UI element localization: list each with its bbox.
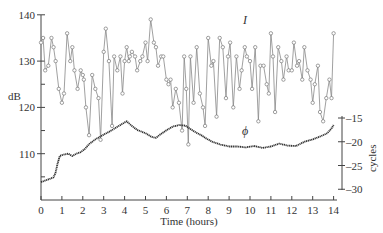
data-point (167, 83, 170, 86)
data-point (119, 55, 122, 58)
y-tick-label: 120 (19, 101, 36, 113)
data-point (50, 36, 53, 39)
data-point (325, 96, 328, 99)
data-point (116, 69, 119, 72)
data-point (121, 92, 124, 95)
data-point (277, 46, 280, 49)
data-point (107, 59, 110, 62)
data-point (248, 59, 251, 62)
series-line (41, 121, 334, 182)
data-point (269, 32, 272, 35)
y-tick-label: 110 (19, 148, 36, 160)
x-axis-label: Time (hours) (160, 215, 218, 228)
data-point (267, 92, 270, 95)
data-point (243, 46, 246, 49)
data-point (69, 59, 72, 62)
data-point (99, 138, 102, 141)
x-tick-label: 14 (328, 204, 340, 216)
data-point (171, 106, 174, 109)
data-point (332, 32, 335, 35)
data-point (215, 115, 218, 118)
series-line (41, 19, 334, 144)
y-tick-label: 130 (19, 55, 36, 67)
data-point (81, 73, 84, 76)
data-point (306, 69, 309, 72)
data-point (79, 69, 82, 72)
data-point (295, 64, 298, 67)
data-point (201, 106, 204, 109)
data-point (235, 55, 238, 58)
right-y-tick-label: –25 (345, 160, 363, 172)
series-label-i: I (242, 13, 248, 27)
data-point (313, 83, 316, 86)
data-point (262, 64, 265, 67)
data-point (174, 87, 177, 90)
data-point (123, 59, 126, 62)
data-point (43, 69, 46, 72)
x-tick-label: 10 (245, 204, 257, 216)
data-point (144, 41, 147, 44)
data-point (177, 101, 180, 104)
data-point (135, 69, 138, 72)
data-point (218, 36, 221, 39)
right-y-tick-label: –30 (345, 183, 363, 195)
data-point (257, 120, 260, 123)
data-point (189, 55, 192, 58)
data-point (62, 92, 65, 95)
data-point (133, 55, 136, 58)
data-point (245, 55, 248, 58)
right-y-tick-label: –20 (345, 136, 363, 148)
data-point (152, 41, 155, 44)
data-point (232, 106, 235, 109)
data-point (311, 101, 314, 104)
data-point (254, 46, 257, 49)
y-axis-label-right: cycles (366, 145, 378, 172)
data-point (41, 36, 44, 39)
data-point (301, 78, 304, 81)
data-point (297, 59, 300, 62)
data-point (112, 55, 115, 58)
data-point (321, 120, 324, 123)
x-tick-label: 12 (286, 204, 297, 216)
data-point (97, 96, 100, 99)
data-point (141, 55, 144, 58)
data-point (47, 64, 50, 67)
data-point (226, 55, 229, 58)
data-point (94, 87, 97, 90)
data-point (180, 129, 183, 132)
x-tick-label: 11 (266, 204, 277, 216)
data-point (156, 64, 159, 67)
data-point (169, 78, 172, 81)
data-point (303, 46, 306, 49)
data-point (65, 32, 68, 35)
data-point (316, 64, 319, 67)
data-point (292, 41, 295, 44)
data-point (195, 46, 198, 49)
data-point (149, 18, 152, 21)
data-point (212, 59, 215, 62)
chart: 01234567891011121314 110120130140 –15–20… (0, 0, 383, 233)
data-point (102, 50, 105, 53)
data-point (250, 87, 253, 90)
data-point (125, 46, 128, 49)
x-tick-label: 13 (307, 204, 319, 216)
right-y-tick-label: –15 (345, 112, 363, 124)
data-point (71, 46, 74, 49)
series-phase (41, 121, 334, 182)
data-point (282, 78, 285, 81)
data-point (203, 124, 206, 127)
x-tick-label: 5 (143, 204, 149, 216)
data-point (309, 78, 312, 81)
data-point (185, 87, 188, 90)
data-point (162, 55, 165, 58)
x-tick-label: 0 (38, 204, 44, 216)
data-point (285, 55, 288, 58)
series-label-phi: ϕ (242, 124, 248, 138)
data-point (221, 46, 224, 49)
data-point (224, 96, 227, 99)
data-point (130, 50, 133, 53)
data-point (240, 69, 243, 72)
data-point (104, 27, 107, 30)
data-point (128, 55, 131, 58)
x-ticks: 01234567891011121314 (38, 196, 339, 216)
